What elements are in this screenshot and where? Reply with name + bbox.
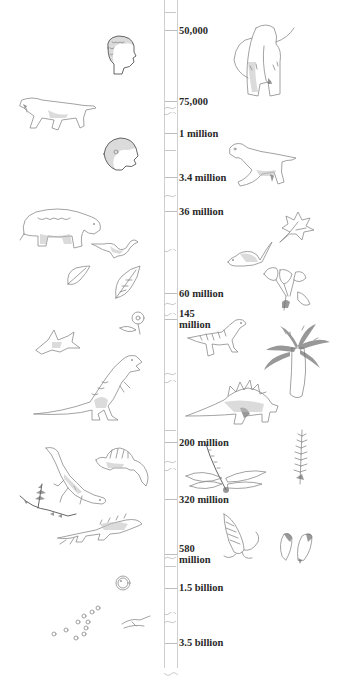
bar-break xyxy=(164,460,176,464)
bar-divider xyxy=(164,12,176,13)
time-label-60-million: 60 million xyxy=(179,288,224,299)
timeline-tick xyxy=(165,554,177,555)
trilobite-illustration xyxy=(222,512,262,560)
timeline-tick xyxy=(165,211,177,212)
sabertooth-cat-illustration xyxy=(18,96,98,134)
bar-divider xyxy=(164,566,176,567)
timeline-tick xyxy=(165,499,177,500)
time-label-75000: 75,000 xyxy=(179,96,208,107)
dragonfly-illustration xyxy=(182,442,268,498)
stegosaurus-illustration xyxy=(184,370,280,426)
early-horse-illustration xyxy=(226,140,298,192)
bar-break xyxy=(164,620,176,624)
bar-break xyxy=(164,249,176,253)
early-hominid-head-illustration xyxy=(100,136,140,172)
time-label-36-million: 36 million xyxy=(179,206,224,217)
time-label-1-million: 1 million xyxy=(179,128,218,139)
bar-break xyxy=(164,302,176,306)
woolly-mammoth-illustration xyxy=(232,22,302,102)
bar-break xyxy=(164,313,176,317)
bar-bottom-edge xyxy=(164,664,178,682)
leaf-fossil-illustration-2 xyxy=(112,264,142,300)
bacteria-colony-illustration xyxy=(50,606,106,646)
timeline-tick xyxy=(165,442,177,443)
timeline-tick xyxy=(165,101,177,102)
bar-break xyxy=(164,556,176,560)
bar-divider xyxy=(164,150,176,151)
sea-creatures-illustration xyxy=(278,530,326,564)
tyrannosaurus-illustration xyxy=(32,350,144,422)
timeline-tick xyxy=(165,177,177,178)
bar-break xyxy=(164,106,176,110)
dimetrodon-illustration xyxy=(94,446,152,488)
time-label-1-5-billion: 1.5 billion xyxy=(179,582,223,593)
time-label-580-million-line2: million xyxy=(179,554,211,565)
timeline-tick xyxy=(165,643,177,644)
time-label-580-million-line1: 580 xyxy=(179,543,211,554)
single-cell-illustration xyxy=(114,574,132,592)
bar-break xyxy=(164,468,176,472)
modern-human-head-illustration xyxy=(100,34,140,78)
leaf-fossil-illustration xyxy=(66,264,92,286)
time-label-3-5-billion: 3.5 billion xyxy=(179,637,223,648)
time-label-3-4-million: 3.4 million xyxy=(179,172,226,183)
timeline-tick xyxy=(165,293,177,294)
bar-break xyxy=(164,612,176,616)
small-theropod-illustration xyxy=(186,318,250,358)
small-bird-illustration xyxy=(90,232,140,260)
horsetail-plant-illustration xyxy=(288,428,316,486)
time-label-50000: 50,000 xyxy=(179,25,208,36)
flower-illustration xyxy=(118,310,148,336)
early-tetrapod-illustration xyxy=(56,512,144,546)
timeline-tick xyxy=(165,319,177,320)
timeline-tick xyxy=(165,30,177,31)
bar-break xyxy=(164,194,176,198)
timeline-tick xyxy=(165,588,177,589)
bar-break xyxy=(164,372,176,376)
timeline-tick xyxy=(165,133,177,134)
bar-break xyxy=(164,112,176,116)
bar-break xyxy=(164,380,176,384)
early-microbes-illustration xyxy=(120,614,152,630)
time-label-580-million: 580 million xyxy=(179,543,211,565)
bar-divider xyxy=(164,430,176,431)
maple-leaf-illustration xyxy=(276,210,316,246)
ginkgo-plant-illustration xyxy=(262,266,314,314)
